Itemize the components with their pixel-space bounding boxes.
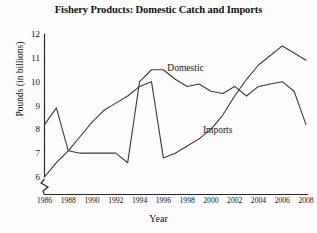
axis-lines [41, 34, 308, 195]
plot-area [0, 0, 317, 233]
y-axis-break-icon [41, 179, 48, 195]
chart-figure: Fishery Products: Domestic Catch and Imp… [0, 0, 317, 233]
series-label-imports: Imports [203, 125, 233, 135]
series-line-domestic [45, 70, 307, 163]
series-label-domestic: Domestic [167, 63, 203, 73]
